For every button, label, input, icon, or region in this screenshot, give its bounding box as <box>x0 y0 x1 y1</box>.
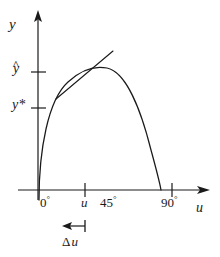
degree-icon: ° <box>113 194 117 204</box>
degree-icon: ° <box>47 194 51 204</box>
figure-canvas <box>0 0 220 257</box>
x-tick-label-45deg-text: 45 <box>100 195 113 210</box>
x-tick-label-0deg: 0° <box>40 195 50 209</box>
x-tick-label-90deg: 90° <box>161 195 178 209</box>
circumflex-accent-icon: ^ <box>13 58 19 71</box>
y-axis-label: y <box>9 17 16 32</box>
delta-symbol: Δ <box>62 234 70 249</box>
y-tick-label-ystar: y* <box>12 98 25 112</box>
delta-u-label: Δ u <box>62 235 78 248</box>
x-tick-label-u: u <box>81 196 88 209</box>
x-tick-label-45deg: 45° <box>100 195 117 209</box>
x-axis-label: u <box>196 201 203 215</box>
figure-container: y u ^ y y* 0° u 45° 90° Δ u <box>0 0 220 257</box>
tangent-line <box>56 51 113 99</box>
response-curve <box>39 67 161 200</box>
y-tick-label-yhat: ^ y <box>13 62 19 76</box>
degree-icon: ° <box>174 194 178 204</box>
delta-u-variable: u <box>71 234 78 249</box>
x-tick-label-90deg-text: 90 <box>161 195 174 210</box>
